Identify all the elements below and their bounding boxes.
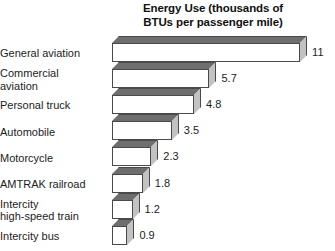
bar-side-face: [194, 88, 201, 114]
bar-value-label: 2.3: [163, 150, 178, 162]
bar-front-face: [112, 121, 172, 140]
bar-side-face: [172, 114, 179, 140]
bar-front-face: [112, 226, 127, 245]
category-label-line: Intercity bus: [0, 230, 104, 243]
bar-group: [112, 88, 201, 114]
bar-side-face: [209, 62, 216, 88]
category-label-line: Intercity: [0, 198, 104, 211]
bar-side-face: [300, 36, 307, 62]
bar-group: [112, 219, 134, 245]
bar-front-face: [112, 69, 209, 88]
category-label-line: aviation: [0, 80, 104, 93]
bar-front-face: [112, 200, 133, 219]
bar-group: [112, 167, 150, 193]
bar-value-label: 4.8: [206, 98, 221, 110]
bar-group: [112, 36, 307, 62]
category-label: AMTRAK railroad: [0, 178, 104, 191]
chart-title-line-2: BTUs per passenger mile): [108, 16, 318, 30]
bar-front-face: [112, 95, 194, 114]
category-label-line: Motorcycle: [0, 152, 104, 165]
category-label: Commercialaviation: [0, 67, 104, 92]
bar-top-face: [112, 88, 201, 95]
bar-top-face: [112, 36, 307, 43]
bar-front-face: [112, 43, 300, 62]
bar-group: [112, 140, 158, 166]
bar-value-label: 1.2: [145, 203, 160, 215]
bar-group: [112, 62, 216, 88]
bar-group: [112, 114, 179, 140]
bar-value-label: 3.5: [184, 124, 199, 136]
category-label: Personal truck: [0, 99, 104, 112]
category-label-line: Personal truck: [0, 99, 104, 112]
bar-value-label: 0.9: [139, 229, 154, 241]
bar-front-face: [112, 147, 151, 166]
bar-value-label: 1.8: [155, 177, 170, 189]
bar-value-label: 11: [312, 46, 323, 58]
category-label-line: Commercial: [0, 67, 104, 80]
energy-use-bar-chart: Energy Use (thousands of BTUs per passen…: [0, 0, 335, 251]
bar-top-face: [112, 114, 179, 121]
category-label: Intercity bus: [0, 230, 104, 243]
chart-title: Energy Use (thousands of BTUs per passen…: [108, 2, 318, 29]
category-label-line: Automobile: [0, 126, 104, 139]
plot-area: 11General aviation5.7Commercialaviation4…: [0, 30, 335, 251]
bar-value-label: 5.7: [221, 72, 236, 84]
category-label-line: General aviation: [0, 47, 104, 60]
category-label: Motorcycle: [0, 152, 104, 165]
category-label-line: high-speed train: [0, 210, 104, 223]
category-label: Intercityhigh-speed train: [0, 198, 104, 223]
category-label: General aviation: [0, 47, 104, 60]
bar-group: [112, 193, 140, 219]
category-label-line: AMTRAK railroad: [0, 178, 104, 191]
bar-side-face: [151, 140, 158, 166]
category-label: Automobile: [0, 126, 104, 139]
bar-front-face: [112, 174, 143, 193]
bar-top-face: [112, 62, 216, 69]
chart-title-line-1: Energy Use (thousands of: [108, 2, 318, 16]
